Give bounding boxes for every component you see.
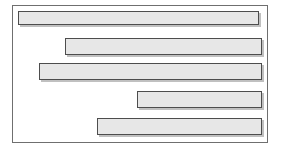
bar-4[interactable]: [137, 91, 262, 108]
diagram-frame: [12, 5, 268, 143]
bar-5[interactable]: [97, 118, 262, 135]
bar-3[interactable]: [39, 63, 262, 80]
bar-2[interactable]: [65, 38, 262, 55]
diagram-canvas: [0, 0, 281, 149]
bar-1[interactable]: [18, 11, 259, 25]
